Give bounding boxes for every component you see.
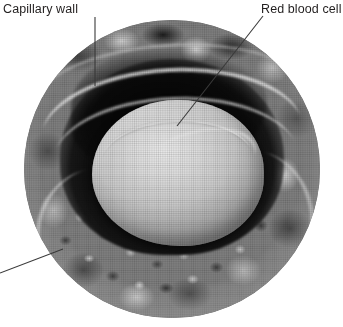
micrograph-image: [24, 20, 320, 318]
label-red-blood-cell: Red blood cell: [261, 2, 342, 16]
plate-vignette: [24, 20, 320, 318]
figure-capillary-micrograph: Capillary wall Red blood cell: [0, 0, 343, 327]
label-capillary-wall: Capillary wall: [3, 2, 78, 16]
